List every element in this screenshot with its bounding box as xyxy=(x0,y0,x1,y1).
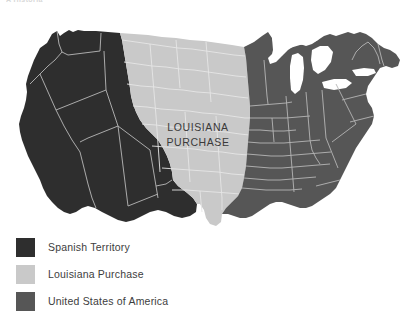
legend-item-united-states: United States of America xyxy=(16,288,256,315)
louisiana-purchase-map-figure: A Historia xyxy=(0,0,420,333)
legend-item-louisiana-purchase: Louisiana Purchase xyxy=(16,261,256,288)
legend-label-united-states: United States of America xyxy=(48,292,168,311)
map-label-line-1: LOUISIANA xyxy=(167,121,228,133)
map-label-line-2: PURCHASE xyxy=(166,136,229,148)
legend-label-spanish-territory: Spanish Territory xyxy=(48,238,130,257)
legend-item-spanish-territory: Spanish Territory xyxy=(16,234,256,261)
map-legend: Spanish Territory Louisiana Purchase Uni… xyxy=(16,234,256,315)
legend-label-louisiana-purchase: Louisiana Purchase xyxy=(48,265,144,284)
legend-swatch-spanish-territory xyxy=(16,238,35,257)
legend-swatch-louisiana-purchase xyxy=(16,265,35,284)
legend-swatch-united-states xyxy=(16,292,35,311)
